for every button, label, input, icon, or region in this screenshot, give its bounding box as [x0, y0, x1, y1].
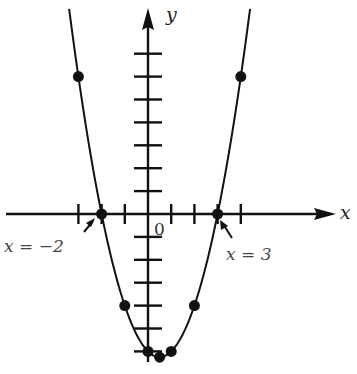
- data-point: [143, 346, 154, 357]
- root-left-arrowhead-icon: [86, 218, 95, 227]
- data-point: [235, 71, 246, 82]
- y-axis-arrow-icon: [142, 8, 154, 30]
- x-axis-arrow-icon: [314, 208, 336, 220]
- data-point: [189, 300, 200, 311]
- x-axis-label: x: [340, 201, 351, 223]
- parabola-plot: [0, 0, 357, 374]
- data-point: [154, 352, 165, 363]
- data-point: [119, 300, 130, 311]
- data-point: [166, 346, 177, 357]
- origin-label: 0: [154, 219, 165, 239]
- y-axis-label: y: [166, 3, 177, 25]
- data-point: [96, 209, 107, 220]
- root-label-right: x = 3: [226, 244, 271, 264]
- data-point: [212, 209, 223, 220]
- data-point: [73, 71, 84, 82]
- root-label-left: x = −2: [4, 236, 64, 256]
